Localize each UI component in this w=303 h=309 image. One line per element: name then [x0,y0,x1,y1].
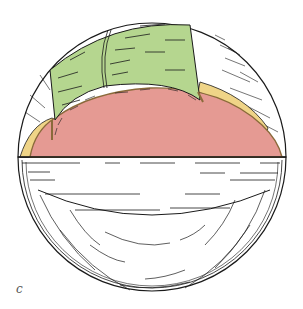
upper-hemisphere [18,23,286,157]
sphere-diagram [0,0,303,309]
panel-label: c [16,282,23,296]
lower-hemisphere [18,157,286,291]
